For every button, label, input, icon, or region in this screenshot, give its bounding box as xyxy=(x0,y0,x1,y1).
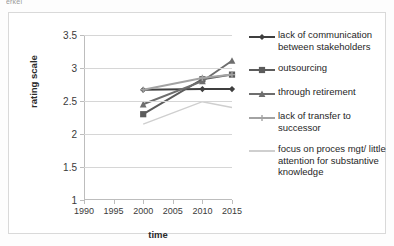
x-axis-tick xyxy=(232,200,233,204)
legend-item-label: through retirement xyxy=(278,86,356,98)
x-axis-tick-label: 2000 xyxy=(133,206,153,216)
data-point-marker xyxy=(199,86,205,92)
chart-legend: lack of communication between stakeholde… xyxy=(249,29,394,188)
y-axis-tick-label: 3.5 xyxy=(63,30,77,41)
x-axis-title: time xyxy=(148,229,168,240)
series-line xyxy=(143,89,232,90)
data-point-marker xyxy=(229,57,236,64)
legend-marker-icon xyxy=(249,111,275,124)
x-axis-tick-label: 1990 xyxy=(74,206,94,216)
data-point-marker xyxy=(140,111,146,117)
y-axis-tick-label: 1.5 xyxy=(63,162,77,173)
legend-item[interactable]: focus on proces mgt/ little attention fo… xyxy=(249,143,394,178)
gridline xyxy=(84,35,232,36)
legend-item-label: outsourcing xyxy=(278,62,327,74)
cropped-top-text: erkel xyxy=(6,0,66,6)
series-layer xyxy=(84,35,232,200)
legend-item-label: lack of communication between stakeholde… xyxy=(278,29,394,52)
y-axis-title: rating scale xyxy=(28,55,39,108)
legend-marker-icon xyxy=(249,63,275,76)
x-axis-tick-label: 2015 xyxy=(222,206,242,216)
legend-marker-icon xyxy=(249,87,275,100)
x-axis-tick xyxy=(173,200,174,204)
gridline xyxy=(84,68,232,69)
legend-item[interactable]: outsourcing xyxy=(249,62,394,76)
x-axis-tick xyxy=(202,200,203,204)
chart-screenshot: erkel rating scale time 11.522.533.51990… xyxy=(0,0,394,246)
x-axis-tick-label: 2010 xyxy=(192,206,212,216)
y-axis-tick-label: 3 xyxy=(71,63,77,74)
y-axis-tick xyxy=(80,101,84,102)
y-axis-tick-label: 2 xyxy=(71,129,77,140)
data-point-marker xyxy=(229,86,235,92)
gridline xyxy=(84,101,232,102)
legend-item-label: focus on proces mgt/ little attention fo… xyxy=(278,143,394,178)
legend-marker-icon xyxy=(249,144,275,157)
x-axis-tick xyxy=(114,200,115,204)
legend-item-label: lack of transfer to successor xyxy=(278,110,394,133)
x-axis-tick xyxy=(84,200,85,204)
legend-marker-icon xyxy=(249,30,275,43)
y-axis-tick xyxy=(80,68,84,69)
x-axis-tick-label: 1995 xyxy=(104,206,124,216)
y-axis-tick xyxy=(80,134,84,135)
series-line xyxy=(143,102,232,124)
y-axis-tick xyxy=(80,167,84,168)
y-axis-tick-label: 2.5 xyxy=(63,96,77,107)
x-axis-tick-label: 2005 xyxy=(163,206,183,216)
y-axis-tick xyxy=(80,35,84,36)
gridline xyxy=(84,167,232,168)
chart-frame: rating scale time 11.522.533.51990199520… xyxy=(8,12,386,234)
y-axis-tick-label: 1 xyxy=(71,195,77,206)
data-point-marker xyxy=(140,87,146,93)
x-axis-tick xyxy=(143,200,144,204)
gridline xyxy=(84,134,232,135)
legend-item[interactable]: through retirement xyxy=(249,86,394,100)
legend-item[interactable]: lack of transfer to successor xyxy=(249,110,394,133)
plot-area: 11.522.533.5199019952000200520102015 xyxy=(84,35,232,200)
legend-item[interactable]: lack of communication between stakeholde… xyxy=(249,29,394,52)
